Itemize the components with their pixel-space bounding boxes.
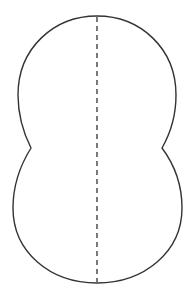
symmetry-diagram bbox=[0, 0, 195, 305]
